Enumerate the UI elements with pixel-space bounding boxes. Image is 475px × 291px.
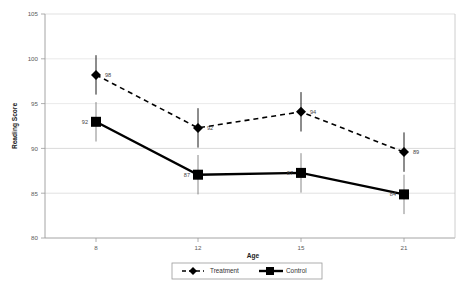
x-tick-label-21: 21 bbox=[401, 244, 408, 251]
control-data-label: 92 bbox=[82, 119, 88, 125]
y-axis-ticks: 105 100 95 90 85 80 bbox=[28, 10, 45, 241]
control-data-label: 87 bbox=[184, 172, 190, 178]
treatment-data-label: 98 bbox=[105, 72, 111, 78]
x-axis-ticks: 8 12 15 21 bbox=[94, 238, 408, 251]
control-marker bbox=[399, 189, 409, 199]
y-tick-label-100: 100 bbox=[28, 55, 39, 62]
control-data-label: 84 bbox=[390, 191, 396, 197]
x-tick-label-15: 15 bbox=[298, 244, 305, 251]
y-tick-label-85: 85 bbox=[31, 190, 38, 197]
control-marker bbox=[193, 170, 203, 180]
legend-square-marker-icon bbox=[266, 267, 274, 275]
treatment-data-label: 89 bbox=[413, 149, 419, 155]
treatment-data-label: 92 bbox=[207, 125, 213, 131]
chart-legend: Treatment Control bbox=[172, 263, 322, 279]
y-tick-label-95: 95 bbox=[31, 100, 38, 107]
reading-score-line-chart: 105 100 95 90 85 80 8 12 15 21 Age Readi… bbox=[0, 0, 475, 291]
treatment-data-label: 94 bbox=[310, 109, 316, 115]
control-marker bbox=[91, 117, 101, 127]
control-data-label: 87 bbox=[287, 170, 293, 176]
y-tick-label-90: 90 bbox=[31, 145, 38, 152]
legend-label-control: Control bbox=[286, 267, 307, 274]
y-tick-label-105: 105 bbox=[28, 10, 39, 17]
control-marker bbox=[296, 168, 306, 178]
x-tick-label-8: 8 bbox=[94, 244, 98, 251]
y-axis-title: Reading Score bbox=[11, 103, 19, 150]
x-tick-label-12: 12 bbox=[195, 244, 202, 251]
legend-label-treatment: Treatment bbox=[210, 267, 239, 274]
y-tick-label-80: 80 bbox=[31, 234, 38, 241]
chart-container: 105 100 95 90 85 80 8 12 15 21 Age Readi… bbox=[0, 0, 475, 291]
x-axis-title: Age bbox=[247, 252, 260, 260]
